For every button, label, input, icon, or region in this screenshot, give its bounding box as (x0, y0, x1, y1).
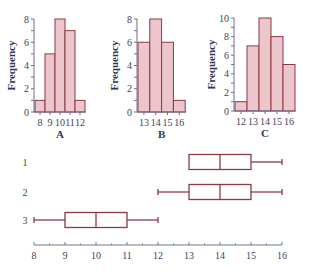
x-tick-label: 16 (174, 117, 184, 128)
x-tick-label: 15 (272, 116, 282, 127)
x-tick-label: 10 (91, 250, 101, 261)
y-tick-label: 0 (224, 106, 229, 117)
y-tick-label: 2 (127, 83, 132, 94)
y-tick-label: 0 (127, 107, 132, 118)
y-tick-label: 10 (219, 13, 229, 24)
histogram-bar (75, 100, 85, 112)
panel-label: B (158, 128, 166, 140)
y-tick-label: 6 (24, 37, 29, 48)
y-tick-label: 8 (24, 14, 29, 25)
row-label: 3 (23, 215, 28, 226)
y-axis-title: Frequency (5, 40, 17, 90)
x-tick-label: 8 (38, 117, 43, 128)
boxplot-row-3: 3 (23, 213, 159, 228)
x-tick-label: 14 (151, 117, 161, 128)
y-tick-label: 8 (224, 31, 229, 42)
histogram-bar (162, 42, 174, 112)
histogram-bar (150, 19, 162, 112)
boxplot-row-2: 2 (23, 185, 283, 200)
y-tick-label: 4 (24, 60, 29, 71)
panel-label: A (56, 128, 64, 140)
histogram-bar (45, 54, 55, 112)
x-tick-label: 16 (284, 116, 294, 127)
x-tick-label: 10 (55, 117, 65, 128)
row-label: 1 (23, 157, 28, 168)
row-label: 2 (23, 187, 28, 198)
x-tick-label: 9 (63, 250, 68, 261)
y-tick-label: 6 (127, 37, 132, 48)
x-tick-label: 11 (65, 117, 75, 128)
histogram-bar (65, 31, 75, 112)
histogram-bar (259, 18, 271, 111)
x-tick-label: 9 (48, 117, 53, 128)
x-tick-label: 15 (163, 117, 173, 128)
histogram-bar (55, 19, 65, 112)
x-tick-label: 11 (122, 250, 132, 261)
x-tick-label: 8 (32, 250, 37, 261)
x-tick-label: 12 (236, 116, 246, 127)
histogram-bar (283, 65, 295, 112)
y-tick-label: 2 (24, 83, 29, 94)
y-tick-label: 8 (127, 14, 132, 25)
y-tick-label: 4 (127, 60, 132, 71)
x-tick-label: 14 (260, 116, 270, 127)
x-tick-label: 12 (75, 117, 85, 128)
y-axis-title: Frequency (108, 40, 120, 90)
y-tick-label: 6 (224, 50, 229, 61)
x-tick-label: 14 (215, 250, 225, 261)
y-axis-title: Frequency (205, 39, 217, 89)
histogram-bar (247, 46, 259, 111)
x-tick-label: 13 (248, 116, 258, 127)
boxplot-row-1: 1 (23, 155, 283, 170)
histogram-bar (235, 102, 247, 111)
histogram-a: 0246889101112FrequencyA (5, 14, 86, 141)
histogram-bar (35, 100, 45, 112)
x-tick-label: 12 (153, 250, 163, 261)
x-tick-label: 15 (246, 250, 256, 261)
boxplot: 1238910111213141516 (23, 155, 288, 262)
histogram-b: 0246813141516FrequencyB (108, 14, 186, 141)
histogram-bar (271, 37, 283, 111)
y-tick-label: 4 (224, 68, 229, 79)
histogram-c: 02468101213141516FrequencyC (205, 13, 296, 140)
x-tick-label: 16 (277, 250, 287, 261)
histogram-bar (138, 42, 150, 112)
histogram-bar (173, 100, 185, 112)
chart-canvas: 0246889101112FrequencyA0246813141516Freq… (0, 0, 310, 276)
y-tick-label: 0 (24, 107, 29, 118)
y-tick-label: 2 (224, 87, 229, 98)
x-tick-label: 13 (184, 250, 194, 261)
x-tick-label: 13 (139, 117, 149, 128)
panel-label: C (261, 127, 269, 139)
